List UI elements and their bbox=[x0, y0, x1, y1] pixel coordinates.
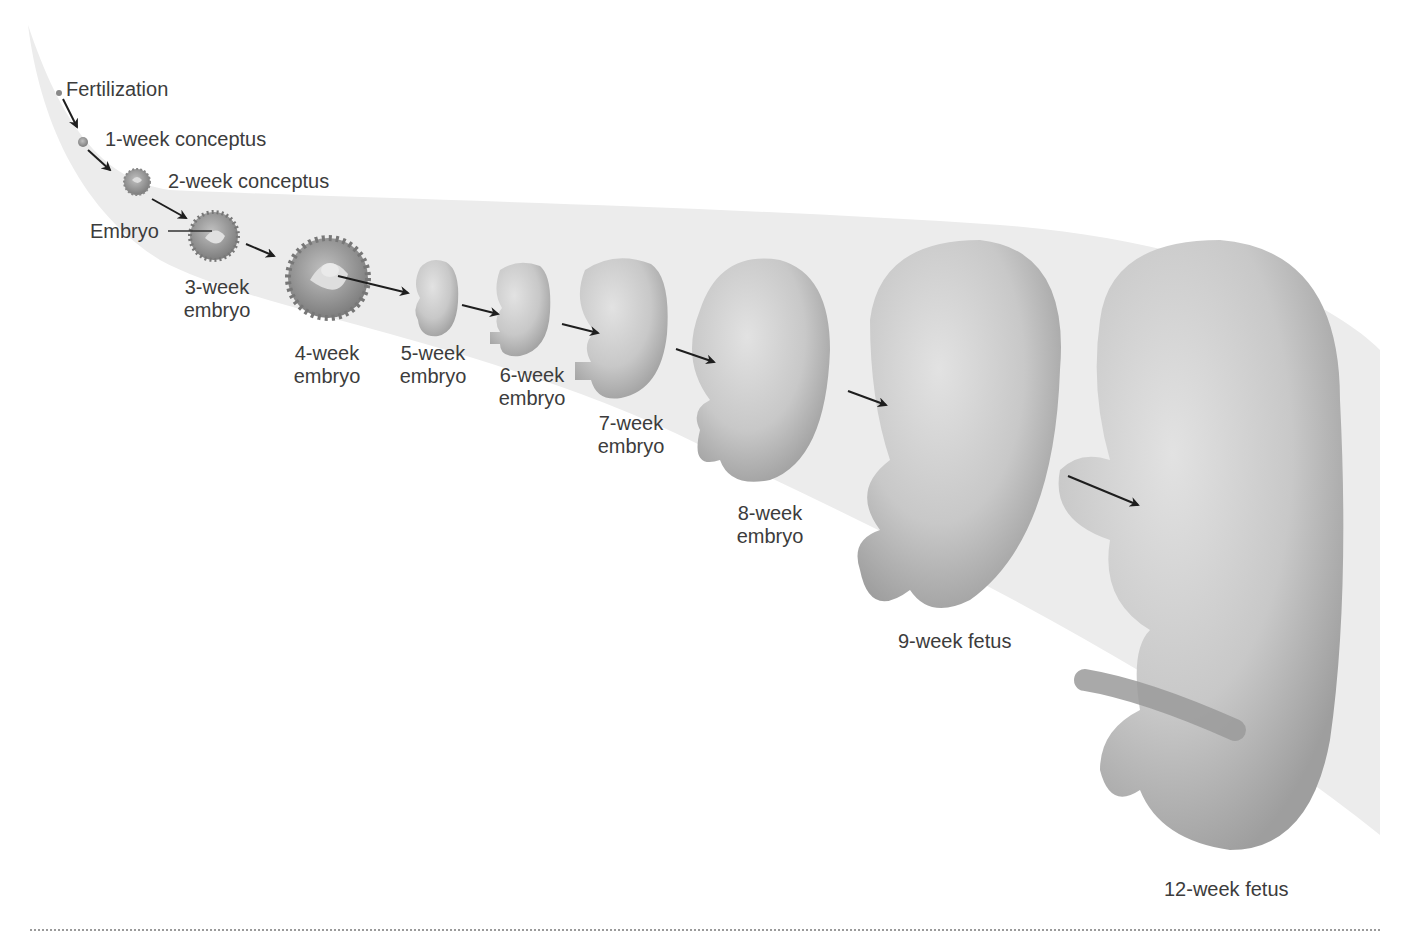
label-4-week-embryo: 4-week embryo bbox=[282, 342, 372, 388]
label-line: embryo bbox=[487, 387, 577, 410]
label-line: embryo bbox=[586, 435, 676, 458]
label-line: 3-week bbox=[172, 276, 262, 299]
label-12-week-fetus: 12-week fetus bbox=[1164, 878, 1289, 901]
label-embryo-callout: Embryo bbox=[90, 220, 159, 243]
week2-conceptus-icon bbox=[124, 169, 150, 195]
label-3-week-embryo: 3-week embryo bbox=[172, 276, 262, 322]
label-2-week-conceptus: 2-week conceptus bbox=[168, 170, 329, 193]
label-7-week-embryo: 7-week embryo bbox=[586, 412, 676, 458]
week5-embryo-icon bbox=[415, 260, 458, 336]
prenatal-development-diagram: Fertilization 1-week conceptus 2-week co… bbox=[0, 0, 1408, 941]
week4-embryo-icon bbox=[288, 238, 368, 318]
label-9-week-fetus: 9-week fetus bbox=[898, 630, 1011, 653]
week3-embryo-icon bbox=[190, 212, 238, 260]
week1-conceptus-icon bbox=[78, 137, 88, 147]
label-line: 8-week bbox=[725, 502, 815, 525]
label-1-week-conceptus: 1-week conceptus bbox=[105, 128, 266, 151]
label-5-week-embryo: 5-week embryo bbox=[388, 342, 478, 388]
label-line: embryo bbox=[388, 365, 478, 388]
fertilization-dot bbox=[56, 90, 62, 96]
label-line: 7-week bbox=[586, 412, 676, 435]
label-line: embryo bbox=[172, 299, 262, 322]
label-6-week-embryo: 6-week embryo bbox=[487, 364, 577, 410]
label-line: 4-week bbox=[282, 342, 372, 365]
label-line: embryo bbox=[725, 525, 815, 548]
label-line: 5-week bbox=[388, 342, 478, 365]
label-line: embryo bbox=[282, 365, 372, 388]
label-fertilization: Fertilization bbox=[66, 78, 168, 101]
label-8-week-embryo: 8-week embryo bbox=[725, 502, 815, 548]
dotted-divider bbox=[30, 929, 1380, 931]
label-line: 6-week bbox=[487, 364, 577, 387]
